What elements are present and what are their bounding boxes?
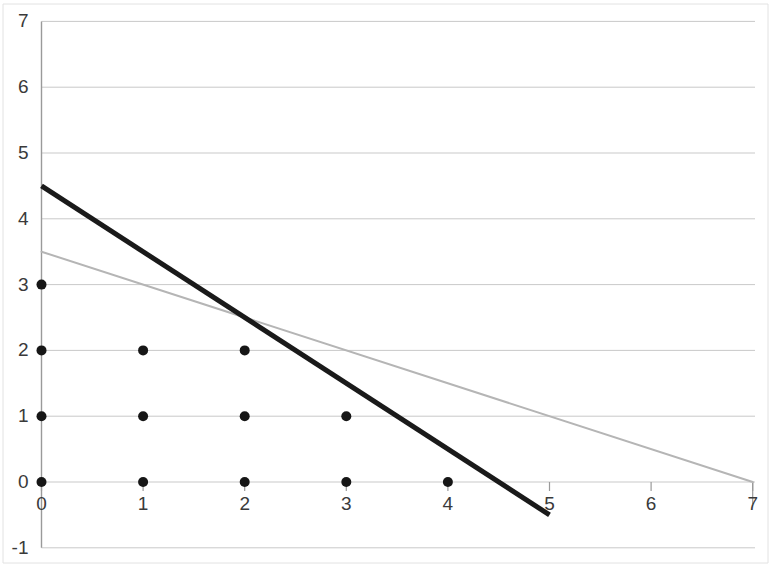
x-tick-label-2: 2 (239, 493, 250, 514)
y-tick-label-1: 1 (18, 405, 29, 426)
y-tick-label-6: 6 (18, 76, 29, 97)
y-tick-label--1: -1 (12, 537, 29, 558)
y-tick-label-0: 0 (18, 471, 29, 492)
scatter-plot: -10123456701234567 (0, 0, 771, 568)
y-tick-label-4: 4 (18, 208, 29, 229)
gridlines (42, 21, 756, 547)
x-tick-label-0: 0 (36, 493, 47, 514)
constraint-line-light (42, 252, 753, 482)
x-tick-label-5: 5 (544, 493, 555, 514)
data-points (37, 280, 453, 487)
x-tick-label-1: 1 (138, 493, 149, 514)
data-point (138, 477, 148, 487)
x-tick-label-7: 7 (747, 493, 758, 514)
data-point (341, 477, 351, 487)
data-point (37, 345, 47, 355)
y-tick-label-2: 2 (18, 339, 29, 360)
y-tick-label-5: 5 (18, 142, 29, 163)
data-point (341, 411, 351, 421)
y-tick-label-3: 3 (18, 274, 29, 295)
data-point (138, 345, 148, 355)
data-point (443, 477, 453, 487)
x-tick-label-4: 4 (443, 493, 454, 514)
data-point (37, 477, 47, 487)
data-point (37, 280, 47, 290)
data-point (37, 411, 47, 421)
y-tick-label-7: 7 (18, 10, 29, 31)
chart-container: -10123456701234567 (0, 0, 771, 568)
data-point (240, 345, 250, 355)
data-point (138, 411, 148, 421)
data-point (240, 477, 250, 487)
chart-frame (3, 4, 768, 563)
x-tick-label-3: 3 (341, 493, 352, 514)
data-point (240, 411, 250, 421)
x-tick-label-6: 6 (646, 493, 657, 514)
